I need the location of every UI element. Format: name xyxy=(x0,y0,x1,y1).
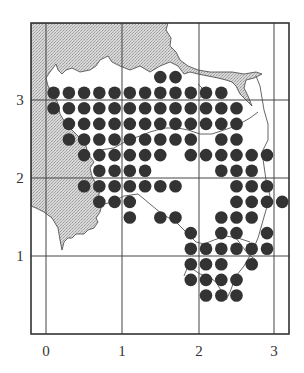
distribution-dot xyxy=(93,149,106,162)
distribution-dot xyxy=(215,242,228,255)
distribution-dot xyxy=(230,196,243,209)
distribution-dot xyxy=(108,102,121,115)
distribution-dot xyxy=(93,164,106,177)
distribution-dot xyxy=(200,274,213,287)
distribution-dot xyxy=(93,196,106,209)
distribution-dot xyxy=(185,102,198,115)
distribution-dot xyxy=(200,86,213,99)
distribution-dot xyxy=(215,164,228,177)
distribution-dot xyxy=(154,118,167,131)
distribution-dot xyxy=(245,196,258,209)
distribution-dot xyxy=(185,274,198,287)
distribution-dot xyxy=(108,86,121,99)
distribution-dot xyxy=(261,149,274,162)
distribution-dot xyxy=(185,227,198,240)
distribution-dot xyxy=(215,118,228,131)
y-tick-1: 1 xyxy=(16,248,24,264)
distribution-dot xyxy=(200,102,213,115)
distribution-dot xyxy=(124,102,137,115)
distribution-dot xyxy=(185,258,198,271)
distribution-dot xyxy=(185,86,198,99)
y-axis-labels: 3 2 1 xyxy=(16,92,24,264)
distribution-dot xyxy=(93,133,106,146)
x-tick-3: 3 xyxy=(270,343,278,359)
distribution-dot xyxy=(185,133,198,146)
distribution-dot xyxy=(215,149,228,162)
distribution-dot xyxy=(154,133,167,146)
distribution-dot xyxy=(230,133,243,146)
distribution-dot xyxy=(200,289,213,302)
distribution-dot xyxy=(124,149,137,162)
distribution-dot xyxy=(261,196,274,209)
x-axis-labels: 0 1 2 3 xyxy=(42,343,278,359)
distribution-dot xyxy=(63,86,76,99)
distribution-dot xyxy=(215,102,228,115)
distribution-dot xyxy=(230,211,243,224)
distribution-dot xyxy=(215,289,228,302)
distribution-dot xyxy=(154,211,167,224)
distribution-dot xyxy=(78,149,91,162)
distribution-dot xyxy=(139,164,152,177)
distribution-dot xyxy=(169,118,182,131)
distribution-dot xyxy=(78,102,91,115)
distribution-dot xyxy=(230,102,243,115)
distribution-dot xyxy=(200,118,213,131)
distribution-dot xyxy=(78,180,91,193)
distribution-dot xyxy=(124,180,137,193)
distribution-dot xyxy=(108,180,121,193)
distribution-dot xyxy=(154,102,167,115)
distribution-dot xyxy=(78,133,91,146)
distribution-dot xyxy=(169,71,182,84)
distribution-dot xyxy=(215,274,228,287)
distribution-dot xyxy=(154,86,167,99)
distribution-dot xyxy=(169,180,182,193)
distribution-dot xyxy=(124,164,137,177)
distribution-dot xyxy=(169,102,182,115)
distribution-dot xyxy=(93,86,106,99)
distribution-dot xyxy=(63,102,76,115)
distribution-dot xyxy=(230,274,243,287)
x-tick-2: 2 xyxy=(195,343,203,359)
distribution-dot xyxy=(215,211,228,224)
distribution-dot xyxy=(215,258,228,271)
distribution-dot xyxy=(108,196,121,209)
distribution-dot xyxy=(169,211,182,224)
distribution-dot xyxy=(230,180,243,193)
distribution-dot xyxy=(245,149,258,162)
distribution-dot xyxy=(245,242,258,255)
grid xyxy=(31,23,289,334)
distribution-dot xyxy=(154,71,167,84)
distribution-dot xyxy=(230,227,243,240)
distribution-dot xyxy=(108,133,121,146)
y-tick-2: 2 xyxy=(16,170,24,186)
distribution-dot xyxy=(276,196,289,209)
distribution-dot xyxy=(124,86,137,99)
distribution-dot xyxy=(93,102,106,115)
distribution-dot xyxy=(139,180,152,193)
distribution-dot xyxy=(261,227,274,240)
distribution-dot xyxy=(93,118,106,131)
distribution-dot xyxy=(124,211,137,224)
distribution-dot xyxy=(78,86,91,99)
distribution-dot xyxy=(261,180,274,193)
distribution-dot xyxy=(139,133,152,146)
distribution-dot xyxy=(124,118,137,131)
distribution-dot xyxy=(63,118,76,131)
distribution-dot xyxy=(245,164,258,177)
map-figure: 0 1 2 3 3 2 1 xyxy=(0,0,304,373)
distribution-dot xyxy=(108,118,121,131)
distribution-dot xyxy=(185,118,198,131)
distribution-dots xyxy=(47,71,288,302)
distribution-dot xyxy=(108,164,121,177)
distribution-dot xyxy=(245,211,258,224)
x-tick-0: 0 xyxy=(42,343,50,359)
distribution-dot xyxy=(215,227,228,240)
distribution-dot xyxy=(169,133,182,146)
distribution-dot xyxy=(185,242,198,255)
distribution-dot xyxy=(200,242,213,255)
distribution-dot xyxy=(154,180,167,193)
distribution-dot xyxy=(124,196,137,209)
distribution-dot xyxy=(215,133,228,146)
distribution-dot xyxy=(245,258,258,271)
distribution-dot xyxy=(169,86,182,99)
